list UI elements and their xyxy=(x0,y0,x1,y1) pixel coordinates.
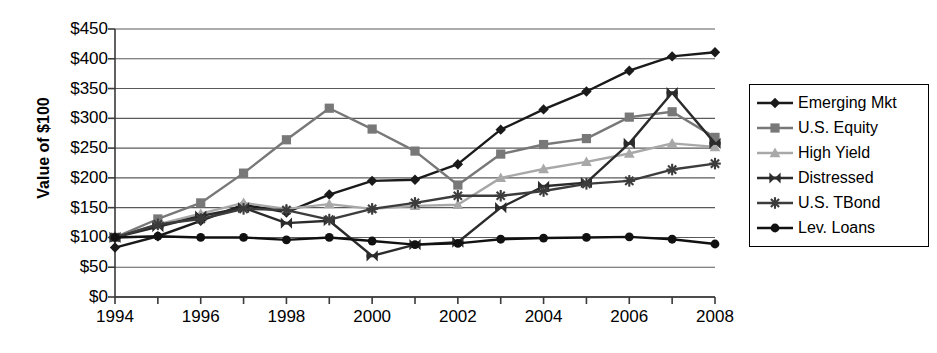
legend-marker-square-icon xyxy=(756,118,794,138)
data-point-marker xyxy=(495,190,507,202)
legend-marker-circle-icon xyxy=(756,218,794,238)
legend-label: U.S. Equity xyxy=(794,119,878,137)
data-point-marker xyxy=(153,232,162,241)
legend-marker-asterisk-icon xyxy=(756,193,794,213)
data-point-marker xyxy=(453,180,462,189)
data-point-marker xyxy=(282,135,291,144)
data-point-marker xyxy=(495,202,506,213)
legend-label: U.S. TBond xyxy=(794,194,880,212)
data-point-marker xyxy=(666,164,678,176)
legend-marker-diamond-icon xyxy=(756,93,794,113)
data-point-marker xyxy=(624,65,634,75)
data-point-marker xyxy=(581,86,591,96)
data-point-marker xyxy=(623,175,635,187)
data-point-marker xyxy=(582,233,591,242)
data-point-marker xyxy=(196,233,205,242)
x-axis-ticks xyxy=(115,297,715,304)
data-point-marker xyxy=(453,239,462,248)
data-point-marker xyxy=(367,176,377,186)
data-point-marker xyxy=(624,138,635,149)
data-point-marker xyxy=(770,97,780,107)
data-point-marker xyxy=(323,214,335,226)
data-point-marker xyxy=(711,240,720,249)
data-point-marker xyxy=(238,203,250,215)
data-point-marker xyxy=(195,213,207,225)
data-point-marker xyxy=(282,235,291,244)
data-point-marker xyxy=(281,218,292,229)
series-lev-loans xyxy=(111,232,720,249)
data-point-marker xyxy=(496,149,505,158)
data-point-marker xyxy=(539,140,548,149)
legend-label: Emerging Mkt xyxy=(794,94,897,112)
gridlines xyxy=(115,29,715,297)
data-point-marker xyxy=(625,113,634,122)
legend-item-u-s-tbond[interactable]: U.S. TBond xyxy=(756,190,922,215)
data-point-marker xyxy=(452,190,464,202)
data-point-marker xyxy=(410,174,420,184)
data-point-marker xyxy=(110,242,120,252)
data-point-marker xyxy=(111,233,120,242)
data-point-marker xyxy=(770,123,779,132)
data-point-marker xyxy=(582,134,591,143)
legend-item-high-yield[interactable]: High Yield xyxy=(756,140,922,165)
data-point-marker xyxy=(281,204,293,216)
data-point-marker xyxy=(368,124,377,133)
data-point-marker xyxy=(538,185,550,197)
legend-marker-x-bowtie-icon xyxy=(756,168,794,188)
data-point-marker xyxy=(771,223,780,232)
data-point-marker xyxy=(409,197,421,209)
data-point-marker xyxy=(239,169,248,178)
data-point-marker xyxy=(769,172,780,183)
legend-item-distressed[interactable]: Distressed xyxy=(756,165,922,190)
data-point-marker xyxy=(325,233,334,242)
data-point-marker xyxy=(152,219,164,231)
data-series-layer xyxy=(109,47,721,261)
data-point-marker xyxy=(239,233,248,242)
data-point-marker xyxy=(410,146,419,155)
data-point-marker xyxy=(496,235,505,244)
legend-label: High Yield xyxy=(794,144,870,162)
data-point-marker xyxy=(581,178,593,190)
data-point-marker xyxy=(539,234,548,243)
data-point-marker xyxy=(667,51,677,61)
chart-legend: Emerging MktU.S. EquityHigh YieldDistres… xyxy=(749,84,929,247)
legend-marker-triangle-icon xyxy=(756,143,794,163)
data-point-marker xyxy=(324,189,334,199)
legend-label: Distressed xyxy=(794,169,874,187)
y-axis-ticks xyxy=(108,29,115,297)
legend-label: Lev. Loans xyxy=(794,219,875,237)
chart-container: Value of $100 $450$400$350$300$250$200$1… xyxy=(0,0,937,353)
data-point-marker xyxy=(538,104,548,114)
legend-item-emerging-mkt[interactable]: Emerging Mkt xyxy=(756,90,922,115)
axis-lines xyxy=(115,29,715,297)
data-point-marker xyxy=(367,250,378,261)
data-point-marker xyxy=(368,237,377,246)
legend-item-u-s-equity[interactable]: U.S. Equity xyxy=(756,115,922,140)
data-point-marker xyxy=(668,107,677,116)
data-point-marker xyxy=(411,240,420,249)
data-point-marker xyxy=(668,235,677,244)
data-point-marker xyxy=(709,158,721,170)
legend-item-lev-loans[interactable]: Lev. Loans xyxy=(756,215,922,240)
data-point-marker xyxy=(325,104,334,113)
data-point-marker xyxy=(710,47,720,57)
data-point-marker xyxy=(196,198,205,207)
data-point-marker xyxy=(769,197,781,209)
data-point-marker xyxy=(625,232,634,241)
data-point-marker xyxy=(366,203,378,215)
